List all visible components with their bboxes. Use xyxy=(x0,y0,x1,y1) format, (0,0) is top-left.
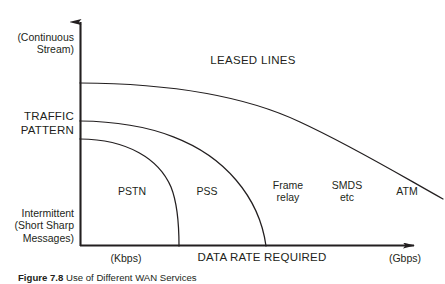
x-axis-high-unit-label: (Gbps) xyxy=(369,252,441,264)
figure-caption-text: Use of Different WAN Services xyxy=(66,272,197,283)
y-axis-bottom-label: Intermittent (Short Sharp Messages) xyxy=(2,207,74,244)
region-label-pstn: PSTN xyxy=(102,185,162,197)
y-axis-title: TRAFFIC PATTERN xyxy=(2,110,74,137)
figure-caption: Figure 7.8 Use of Different WAN Services xyxy=(18,272,438,283)
region-label-pss: PSS xyxy=(182,185,232,197)
region-label-atm: ATM xyxy=(382,185,432,197)
region-label-smds: SMDS etc xyxy=(317,179,377,204)
y-axis-top-label: (Continuous Stream) xyxy=(2,31,74,56)
region-label-leased-lines: LEASED LINES xyxy=(203,54,303,68)
x-axis-low-unit-label: (Kbps) xyxy=(90,252,162,264)
figure-container: (Continuous Stream) TRAFFIC PATTERN Inte… xyxy=(0,0,445,284)
pss-boundary-curve xyxy=(80,121,266,246)
x-axis-title: DATA RATE REQUIRED xyxy=(182,251,342,265)
figure-caption-number: Figure 7.8 xyxy=(18,272,63,283)
region-label-frame-relay: Frame relay xyxy=(258,179,318,204)
